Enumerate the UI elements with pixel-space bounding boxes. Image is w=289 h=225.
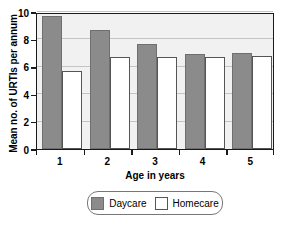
x-tick-label: 2 [92, 156, 122, 167]
chart-legend: Daycare Homecare [87, 191, 223, 215]
bar-group [85, 14, 133, 149]
bar-group [227, 14, 275, 149]
gridline [37, 11, 273, 12]
bar-daycare-age-3 [137, 44, 157, 149]
bar-homecare-age-2 [110, 57, 130, 149]
y-tick-label: 8 [23, 34, 29, 47]
y-axis-ticks: 0246810 [0, 13, 36, 150]
x-tick-label: 4 [188, 156, 218, 167]
bar-groups [37, 14, 273, 149]
legend-entry-daycare: Daycare [91, 197, 146, 210]
x-tick-mark [273, 150, 274, 155]
y-tick-label: 10 [18, 7, 29, 20]
x-tick-mark [226, 150, 227, 155]
x-tick-label: 3 [140, 156, 170, 167]
y-tick-label: 0 [23, 144, 29, 157]
x-tick-mark [179, 150, 180, 155]
legend-label-homecare: Homecare [173, 198, 219, 209]
x-axis-ticks: 12345 [36, 150, 274, 172]
bar-daycare-age-1 [42, 16, 62, 149]
bar-homecare-age-1 [62, 71, 82, 149]
bar-chart-figure: Mean no. of URTIs per annum 0246810 1234… [0, 0, 289, 225]
bar-group [180, 14, 228, 149]
plot-area [36, 13, 274, 150]
x-tick-label: 5 [235, 156, 265, 167]
legend-swatch-homecare [155, 197, 168, 210]
x-tick-label: 1 [45, 156, 75, 167]
y-tick-label: 6 [23, 61, 29, 74]
legend-swatch-daycare [91, 197, 104, 210]
bar-daycare-age-2 [90, 30, 110, 149]
bar-daycare-age-5 [232, 53, 252, 149]
bar-daycare-age-4 [185, 54, 205, 149]
bar-homecare-age-4 [205, 57, 225, 149]
bar-group [132, 14, 180, 149]
bar-homecare-age-5 [252, 56, 272, 149]
y-tick-label: 2 [23, 116, 29, 129]
legend-entry-homecare: Homecare [155, 197, 219, 210]
bar-group [37, 14, 85, 149]
y-tick-label: 4 [23, 89, 29, 102]
x-tick-mark [131, 150, 132, 155]
bar-homecare-age-3 [157, 57, 177, 149]
x-tick-mark [36, 150, 37, 155]
x-axis-title: Age in years [36, 170, 274, 181]
x-tick-mark [84, 150, 85, 155]
legend-label-daycare: Daycare [109, 198, 146, 209]
